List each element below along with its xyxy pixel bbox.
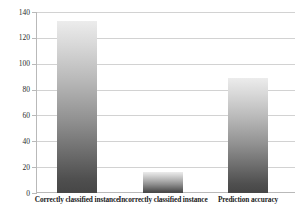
bar-chart: 140 120 100 80 60 40 20 0 Correctly clas…: [0, 0, 305, 217]
bar-incorrectly-classified-instance[interactable]: [143, 172, 183, 193]
x-axis-label-correctly-classified-instance: Correctly classified instance: [27, 196, 127, 204]
x-axis-label-prediction-accuracy: Prediction accuracy: [198, 196, 298, 204]
y-axis-label-120: 120: [0, 34, 30, 42]
y-axis-label-20: 20: [0, 164, 30, 172]
bar-prediction-accuracy[interactable]: [228, 78, 268, 193]
bar-correctly-classified-instance[interactable]: [57, 21, 97, 193]
y-axis-label-60: 60: [0, 112, 30, 120]
x-axis-labels: Correctly classified instance Incorrectl…: [37, 196, 295, 214]
y-axis-label-80: 80: [0, 86, 30, 94]
y-axis-label-0: 0: [0, 190, 30, 198]
y-axis-label-140: 140: [0, 9, 30, 17]
y-tick-0: [32, 193, 37, 194]
y-axis-label-40: 40: [0, 138, 30, 146]
y-axis-label-100: 100: [0, 60, 30, 68]
bar-series: [37, 12, 295, 193]
y-axis-labels: 140 120 100 80 60 40 20 0: [0, 0, 30, 217]
